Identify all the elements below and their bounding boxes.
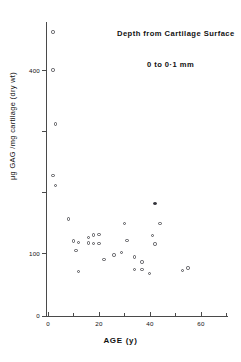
data-point [133,255,136,258]
data-point [158,222,161,225]
data-point [123,222,126,225]
data-point [140,268,143,271]
data-point [92,242,95,245]
data-point [77,241,80,244]
data-point [181,269,184,272]
data-point [51,68,54,71]
data-point [120,251,123,254]
data-point [72,239,75,242]
data-point [54,184,57,187]
data-point [97,233,100,236]
data-point [102,258,105,261]
data-point [67,217,70,220]
data-point [54,122,57,125]
data-point [133,268,136,271]
scatter-chart: 400 100 0 0 20 40 60 μg GAG /mg cartilag… [0,0,241,362]
data-point [112,253,115,256]
data-point [87,241,90,244]
data-point [87,236,90,239]
data-point [51,30,54,33]
data-point [153,202,156,205]
data-point [97,242,100,245]
data-point [77,270,80,273]
plot-area [0,0,241,362]
data-point [186,266,189,269]
data-point [153,242,156,245]
data-point [148,272,151,275]
data-point [140,260,143,263]
data-point [74,249,77,252]
data-point [125,239,128,242]
data-point [51,174,54,177]
data-point [151,234,154,237]
data-point [92,233,95,236]
